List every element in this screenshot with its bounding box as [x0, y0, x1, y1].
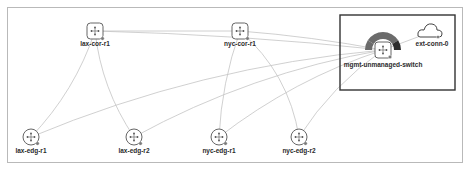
status-badge — [436, 35, 439, 38]
status-badge — [139, 142, 143, 146]
router-square-icon — [232, 23, 248, 39]
node-label: lax-edg-r1 — [15, 147, 46, 155]
topology-canvas[interactable]: lax-cor-r1nyc-cor-r1mgmt-unmanaged-switc… — [0, 0, 472, 171]
node-label: lax-cor-r1 — [80, 40, 110, 47]
status-badge — [304, 142, 308, 146]
node-label: lax-edg-r2 — [118, 147, 149, 155]
node-label: ext-conn-0 — [416, 40, 449, 47]
node-label: mgmt-unmanaged-switch — [344, 61, 423, 69]
status-badge — [36, 142, 40, 146]
status-badge — [224, 142, 228, 146]
node-label: nyc-cor-r1 — [224, 40, 256, 48]
node-label: nyc-edg-r2 — [282, 147, 316, 155]
node-label: nyc-edg-r1 — [202, 147, 236, 155]
router-square-icon — [87, 23, 103, 39]
status-badge — [388, 55, 392, 59]
